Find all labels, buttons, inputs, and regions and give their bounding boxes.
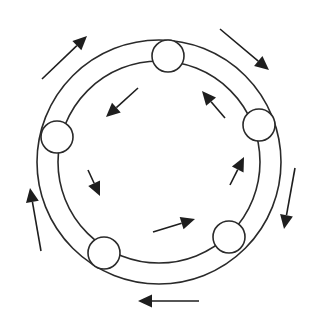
arrow-outer-left-icon bbox=[26, 188, 41, 251]
arrow-outer-top-left-icon bbox=[42, 36, 87, 79]
node-bottom-right bbox=[213, 221, 245, 253]
nodes-group bbox=[41, 40, 275, 269]
outer-ring bbox=[37, 40, 281, 284]
rings-group bbox=[37, 40, 281, 284]
circular-flow-diagram bbox=[0, 0, 318, 321]
arrow-inner-bottom-icon bbox=[153, 217, 195, 232]
arrow-outer-right-icon bbox=[280, 168, 295, 229]
arrow-outer-bottom-icon bbox=[138, 295, 199, 308]
node-left bbox=[41, 121, 73, 153]
node-bottom-left bbox=[88, 237, 120, 269]
arrow-outer-top-right-icon bbox=[220, 29, 269, 70]
arrow-inner-left-icon bbox=[88, 170, 100, 196]
arrow-inner-top-right-icon bbox=[202, 91, 225, 118]
node-right bbox=[243, 109, 275, 141]
arrow-inner-right-icon bbox=[230, 157, 244, 185]
node-top bbox=[152, 40, 184, 72]
arrow-inner-top-left-icon bbox=[106, 88, 138, 117]
